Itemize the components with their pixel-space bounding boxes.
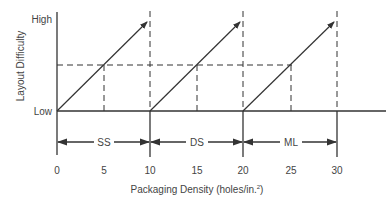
x-tick-0: 0 — [54, 165, 60, 176]
x-tick-25: 25 — [285, 165, 297, 176]
x-tick-15: 15 — [191, 165, 203, 176]
region-label-ml: ML — [284, 137, 298, 148]
x-tick-20: 20 — [237, 165, 249, 176]
ml-difficulty-arrow — [243, 22, 334, 111]
layout-difficulty-diagram: SS DS ML High Low Layout Difficulty 0 5 … — [0, 0, 389, 200]
y-tick-high: High — [31, 14, 52, 25]
x-tick-10: 10 — [144, 165, 156, 176]
region-label-ss: SS — [97, 137, 111, 148]
ds-difficulty-arrow — [150, 22, 240, 111]
region-label-ds: DS — [190, 137, 204, 148]
y-tick-low: Low — [34, 106, 53, 117]
x-tick-30: 30 — [331, 165, 343, 176]
x-tick-5: 5 — [101, 165, 107, 176]
ss-difficulty-arrow — [57, 22, 147, 111]
y-axis-label: Layout Difficulty — [15, 31, 26, 101]
x-axis-label: Packaging Density (holes/in.2) — [131, 184, 264, 195]
